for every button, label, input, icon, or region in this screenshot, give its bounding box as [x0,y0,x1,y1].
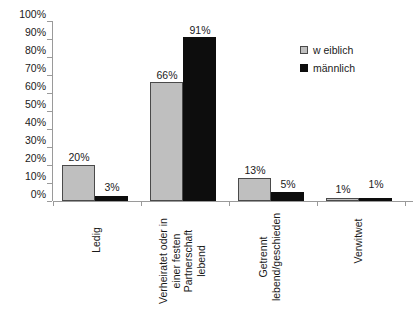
y-axis: 0% 10% 20% 30% 40% 50% 60% 70% 80% 90% 1… [0,14,46,202]
bar-group-ledig: 20% 3% [62,21,128,201]
y-tick-mark-20 [47,165,52,166]
y-tick-mark-60 [47,93,52,94]
bar-value-verwitwet-maennlich: 1% [353,178,399,190]
y-tick-mark-40 [47,129,52,130]
y-tick-mark-80 [47,57,52,58]
bar-value-getrennt-weiblich: 13% [232,164,278,176]
y-tick-label-0: 0% [0,189,46,200]
legend-item-maennlich[interactable]: männlich [300,60,355,76]
x-axis-label-getrennt-line-0: Getrennt [257,210,270,304]
bar-value-getrennt-maennlich: 5% [265,178,311,190]
y-tick-label-80: 80% [0,45,46,56]
x-tick-mark-0 [53,201,54,206]
bar-verheiratet-maennlich[interactable] [183,37,216,201]
legend-swatch-weiblich-icon [300,46,308,54]
bar-value-verheiratet-maennlich: 91% [177,24,223,36]
y-tick-mark-50 [47,111,52,112]
y-tick-mark-90 [47,39,52,40]
legend-label-weiblich: w eiblich [313,44,353,56]
legend-item-weiblich[interactable]: w eiblich [300,42,355,58]
y-tick-label-30: 30% [0,135,46,146]
legend-label-maennlich: männlich [313,62,355,74]
y-tick-label-40: 40% [0,117,46,128]
y-tick-label-100: 100% [0,9,46,20]
y-tick-label-90: 90% [0,27,46,38]
bar-group-verheiratet: 66% 91% [150,21,216,201]
legend: w eiblich männlich [295,38,361,83]
bar-verheiratet-weiblich[interactable] [150,82,183,201]
x-axis-label-verheiratet-line-1: einer festen [170,210,183,312]
x-axis-label-verheiratet-line-0: Verheiratet oder in [157,210,170,312]
x-axis-line [53,201,413,202]
y-tick-mark-100 [47,21,52,22]
legend-swatch-maennlich-icon [300,64,308,72]
bar-getrennt-maennlich[interactable] [271,192,304,201]
x-tick-mark-2 [229,201,230,206]
y-tick-label-70: 70% [0,63,46,74]
x-axis-label-verwitwet-line-0: Verwitwet [352,210,365,272]
bar-chart: 0% 10% 20% 30% 40% 50% 60% 70% 80% 90% 1… [0,0,419,320]
y-tick-label-10: 10% [0,171,46,182]
x-axis-label-verheiratet-line-2: Partnerschaft [182,210,195,312]
x-tick-mark-4 [405,201,406,206]
y-tick-mark-30 [47,147,52,148]
x-axis-label-verheiratet-line-3: lebend [195,210,208,312]
x-tick-mark-1 [141,201,142,206]
x-tick-mark-3 [317,201,318,206]
y-tick-mark-0 [47,201,52,202]
bar-value-ledig-maennlich: 3% [89,181,135,193]
y-tick-label-60: 60% [0,81,46,92]
y-tick-label-50: 50% [0,99,46,110]
y-tick-label-20: 20% [0,153,46,164]
x-axis-label-ledig-line-0: Ledig [90,210,103,270]
y-tick-mark-70 [47,75,52,76]
y-tick-mark-10 [47,183,52,184]
bar-value-ledig-weiblich: 20% [56,151,102,163]
x-axis-label-getrennt-line-1: lebend/geschieden [270,210,283,304]
